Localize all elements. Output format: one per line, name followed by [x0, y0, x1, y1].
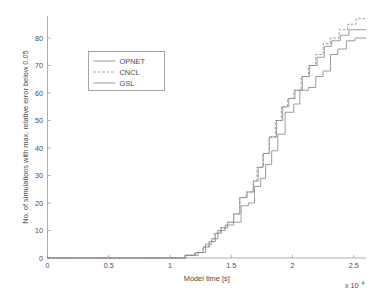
legend-label-cncl: CNCL [120, 68, 140, 77]
x-axis-exponent-label: x 10 [345, 281, 359, 290]
axis-titles-group: Model time [s]No. of simulations with ma… [21, 50, 365, 290]
y-tick-label: 70 [35, 61, 43, 70]
x-tick-label: 2.5 [349, 261, 359, 270]
x-tick-label: 2 [291, 261, 295, 270]
x-tick-label: 1 [168, 261, 172, 270]
y-tick-label: 30 [35, 171, 43, 180]
x-tick-label: 0 [46, 261, 50, 270]
x-axis-title: Model time [s] [184, 274, 230, 283]
chart-figure: 0102030405060708000.511.522.5 OPNETCNCLG… [0, 0, 386, 303]
chart-legend[interactable]: OPNETCNCLGSL [89, 52, 165, 91]
chart-plot-area: 0102030405060708000.511.522.5 OPNETCNCLG… [0, 0, 386, 303]
y-axis-title: No. of simulations with max. relative er… [21, 50, 30, 223]
tick-labels-group: 0102030405060708000.511.522.5 [35, 34, 359, 270]
legend-label-opnet: OPNET [120, 57, 146, 66]
x-tick-label: 0.5 [104, 261, 114, 270]
y-tick-label: 50 [35, 116, 43, 125]
x-tick-label: 1.5 [226, 261, 236, 270]
y-tick-label: 60 [35, 89, 43, 98]
y-tick-label: 10 [35, 226, 43, 235]
legend-label-gsl: GSL [120, 79, 135, 88]
y-tick-label: 20 [35, 199, 43, 208]
y-tick-label: 40 [35, 144, 43, 153]
x-axis-exponent-superscript: 4 [362, 280, 365, 286]
y-tick-label: 80 [35, 34, 43, 43]
y-tick-label: 0 [39, 254, 43, 263]
